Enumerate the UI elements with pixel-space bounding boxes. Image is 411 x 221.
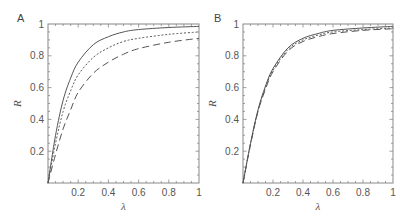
y-axis-label: R	[11, 100, 23, 108]
x-tick-label: 0.2	[266, 187, 280, 198]
x-tick-label: 1	[196, 187, 202, 198]
figure: 0.20.40.60.810.20.40.60.81λR0.20.40.60.8…	[0, 0, 411, 221]
y-tick-label: 0.8	[30, 50, 44, 61]
chart-panel-a: 0.20.40.60.810.20.40.60.81λR	[11, 19, 202, 213]
plot-frame	[48, 24, 199, 183]
y-tick-label: 0.4	[30, 114, 44, 125]
x-axis-label: λ	[120, 200, 126, 212]
series-solid-line	[243, 26, 393, 183]
y-tick-label: 0.2	[30, 146, 44, 157]
plot-frame	[243, 24, 393, 183]
x-tick-label: 0.8	[162, 187, 176, 198]
series-dotted-line	[243, 28, 393, 183]
x-tick-label: 0.8	[356, 187, 370, 198]
x-axis-label: λ	[315, 200, 321, 212]
y-tick-label: 1	[233, 19, 239, 30]
x-tick-label: 0.2	[71, 187, 85, 198]
series-solid-line	[48, 26, 199, 183]
chart-panel-b: 0.20.40.60.810.20.40.60.81λR	[206, 19, 396, 213]
y-tick-label: 0.6	[225, 82, 239, 93]
x-tick-label: 1	[390, 187, 396, 198]
series-dashed-line	[243, 29, 393, 183]
y-axis-label: R	[206, 100, 218, 108]
y-tick-label: 0.8	[225, 50, 239, 61]
y-tick-label: 1	[38, 19, 44, 30]
x-tick-label: 0.4	[101, 187, 115, 198]
x-tick-label: 0.4	[296, 187, 310, 198]
x-tick-label: 0.6	[326, 187, 340, 198]
series-dashed-line	[48, 38, 199, 183]
y-tick-label: 0.2	[225, 146, 239, 157]
x-tick-label: 0.6	[132, 187, 146, 198]
y-tick-label: 0.4	[225, 114, 239, 125]
y-tick-label: 0.6	[30, 82, 44, 93]
